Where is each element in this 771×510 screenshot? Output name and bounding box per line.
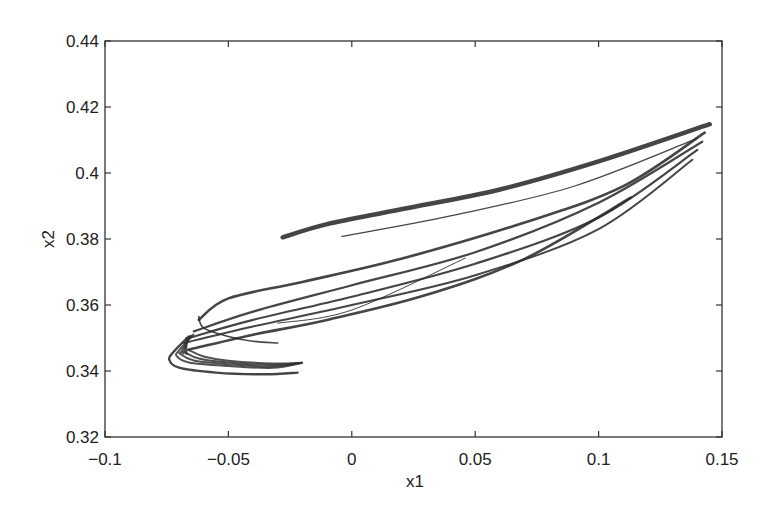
y-tick-label: 0.38	[66, 230, 99, 249]
y-tick-label: 0.36	[66, 296, 99, 315]
y-tick-label: 0.34	[66, 362, 99, 381]
background	[0, 0, 771, 510]
y-axis-label: x2	[39, 230, 58, 248]
x-tick-label: −0.05	[207, 450, 250, 469]
x-tick-label: 0.1	[587, 450, 611, 469]
y-tick-label: 0.32	[66, 428, 99, 447]
x-axis-label: x1	[406, 472, 424, 491]
x-tick-label: −0.1	[88, 450, 122, 469]
y-tick-label: 0.44	[66, 32, 99, 51]
phase-plot: −0.1−0.0500.050.10.15 0.320.340.360.380.…	[0, 0, 771, 510]
y-tick-label: 0.4	[75, 164, 99, 183]
x-tick-label: 0.05	[459, 450, 492, 469]
y-tick-label: 0.42	[66, 98, 99, 117]
x-tick-label: 0	[347, 450, 356, 469]
x-tick-label: 0.15	[705, 450, 738, 469]
